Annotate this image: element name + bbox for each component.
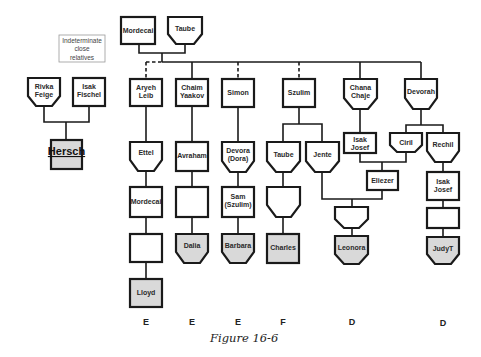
svg-text:Aryeh: Aryeh (136, 84, 156, 92)
person-node-taube-2: Taube (267, 142, 300, 172)
svg-text:Eliezer: Eliezer (371, 177, 394, 184)
person-node-aryeh-leib: Aryeh Leib (130, 79, 162, 106)
svg-text:Josef: Josef (351, 144, 370, 151)
figure-caption: Figure 16-6 (210, 331, 278, 345)
svg-text:Devora: Devora (226, 147, 250, 154)
person-node-mordecai-gen3: Mordecai (130, 187, 162, 217)
gen-label: E (189, 317, 195, 327)
svg-text:relatives: relatives (70, 54, 95, 61)
person-node-isak-josef-1: Isak Josef (344, 133, 376, 153)
person-node-eliezer: Eliezer (367, 171, 398, 190)
person-node-ettel: Ettel (130, 142, 162, 171)
svg-text:Taube: Taube (273, 151, 293, 158)
svg-text:Devorah: Devorah (407, 88, 435, 95)
gen-label: F (280, 317, 286, 327)
person-node-simon: Simon (222, 79, 254, 107)
svg-text:Dalia: Dalia (184, 242, 201, 249)
svg-text:Yaakov: Yaakov (180, 92, 204, 99)
svg-text:JudyT: JudyT (433, 245, 454, 253)
svg-text:Sam: Sam (231, 193, 246, 200)
person-node-isak-fischel: Isak Fischel (73, 78, 105, 106)
svg-text:Simon: Simon (227, 89, 248, 96)
generation-labels: E E E F D D (143, 317, 447, 328)
svg-text:Mordecai: Mordecai (123, 27, 154, 34)
person-node-unnamed-male-3 (130, 234, 162, 262)
person-node-lloyd: Lloyd (130, 279, 162, 307)
svg-text:Leib: Leib (139, 92, 153, 99)
svg-text:Ciril: Ciril (399, 139, 413, 146)
person-node-unnamed-female-1 (267, 187, 300, 217)
person-node-mordecai-top: Mordecai (121, 17, 155, 44)
svg-text:Rechil: Rechil (432, 141, 453, 148)
person-node-chaim-yaakov: Chaim Yaakov (176, 79, 208, 106)
person-node-charles: Charles (267, 234, 299, 263)
svg-text:Chana: Chana (350, 84, 372, 91)
svg-text:Ettel: Ettel (138, 149, 153, 156)
svg-text:Mordecai: Mordecai (131, 198, 162, 205)
svg-text:Leonora: Leonora (338, 244, 366, 251)
svg-text:Lloyd: Lloyd (137, 289, 156, 297)
person-node-szulim: Szulim (283, 79, 315, 107)
svg-text:Josef: Josef (434, 186, 453, 193)
person-node-sam-szulim: Sam (Szulim) (222, 187, 254, 217)
svg-text:Fischel: Fischel (77, 91, 101, 98)
svg-text:Chaim: Chaim (181, 84, 202, 91)
person-node-judyt: JudyT (427, 237, 459, 264)
svg-text:Taube: Taube (175, 25, 195, 32)
svg-text:Isak: Isak (353, 136, 367, 143)
person-node-rechil: Rechil (427, 133, 459, 162)
person-node-unnamed-male-1 (176, 187, 208, 217)
svg-text:Isak: Isak (82, 83, 96, 90)
person-node-avraham: Avraham (176, 142, 208, 171)
person-node-unnamed-male-2 (427, 208, 459, 228)
gen-label: E (235, 317, 241, 327)
svg-text:Rivka: Rivka (35, 83, 54, 90)
person-node-unnamed-female-2 (335, 207, 368, 228)
person-node-devorah: Devorah (405, 79, 437, 109)
svg-text:Barbara: Barbara (225, 242, 252, 249)
gen-label: D (349, 317, 356, 327)
gen-label: E (143, 317, 149, 327)
svg-text:Chaje: Chaje (351, 92, 370, 100)
person-node-dalia: Dalia (176, 234, 208, 263)
svg-text:Szulim: Szulim (288, 89, 311, 96)
person-node-leonora: Leonora (335, 236, 368, 264)
person-node-jente: Jente (306, 142, 339, 172)
svg-text:(Szulim): (Szulim) (224, 201, 251, 209)
person-node-ciril: Ciril (390, 133, 422, 152)
svg-text:Charles: Charles (270, 244, 296, 251)
svg-text:Indeterminate: Indeterminate (62, 37, 102, 44)
person-node-chana-chaje: Chana Chaje (344, 79, 377, 109)
svg-text:close: close (74, 45, 90, 52)
person-node-barbara: Barbara (222, 234, 254, 263)
svg-text:Feige: Feige (35, 91, 53, 99)
person-node-taube-top: Taube (168, 17, 202, 44)
person-node-rivka-feige: Rivka Feige (28, 78, 60, 106)
svg-text:Isak: Isak (436, 178, 450, 185)
person-node-hersch: Hersch (48, 140, 86, 169)
person-node-isak-josef-2: Isak Josef (427, 172, 459, 200)
gen-label: D (440, 318, 447, 328)
person-node-devora-dora: Devora (Dora) (222, 142, 254, 172)
legend-indeterminate-relatives: Indeterminate close relatives (59, 35, 105, 62)
svg-text:Avraham: Avraham (177, 152, 207, 159)
svg-text:Jente: Jente (313, 151, 331, 158)
svg-text:Hersch: Hersch (48, 145, 86, 157)
family-tree-diagram: Indeterminate close relatives Mordecai T… (0, 0, 481, 357)
svg-text:(Dora): (Dora) (228, 155, 249, 163)
